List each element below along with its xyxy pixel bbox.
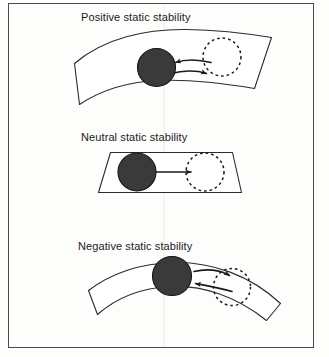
filled-circle-icon-ball	[118, 153, 156, 191]
panel-negative	[89, 257, 281, 321]
panel-title-negative: Negative static stability	[78, 240, 192, 252]
panel-neutral	[99, 153, 242, 193]
filled-circle-icon-ball	[153, 257, 192, 296]
static-stability-figure: Positive static stability Neutral static…	[0, 0, 329, 357]
figure-canvas	[0, 0, 329, 357]
panel-title-neutral: Neutral static stability	[81, 131, 187, 143]
filled-circle-icon-ball	[138, 49, 176, 87]
panel-positive	[75, 29, 272, 104]
panel-title-positive: Positive static stability	[81, 11, 190, 23]
